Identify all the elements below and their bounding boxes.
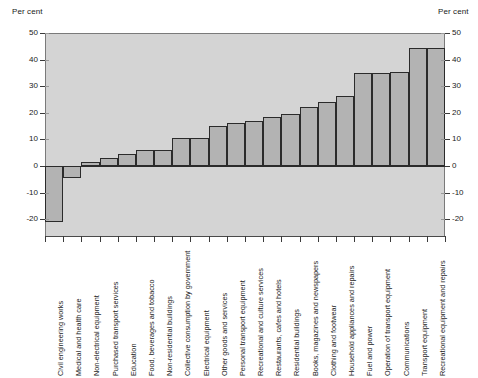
x-axis-label: Non-residential buildings [166, 296, 174, 376]
x-axis-label: Residential buildings [293, 309, 301, 376]
x-axis-label: Recreational and culture services [257, 268, 265, 376]
x-axis-label: Other goods and services [221, 293, 229, 376]
x-axis-label: Education [130, 344, 138, 376]
x-axis-label: Fuel and power [366, 326, 374, 376]
x-axis-label: Electrical equipment [203, 310, 211, 376]
x-axis-labels: Civil engineering worksMedical and healt… [0, 0, 478, 378]
x-axis-label: Operation of transport equipment [384, 269, 392, 376]
x-axis-label: Personal transport equipment [239, 280, 247, 376]
x-axis-label: Household appliances and repairs [348, 266, 356, 376]
x-axis-label: Food, beverages and tobacco [148, 279, 156, 376]
bar-chart: Per cent Per cent 50403020100-10-20 5040… [0, 0, 478, 378]
x-axis-label: Communications [403, 322, 411, 376]
x-axis-label: Civil engineering works [57, 301, 65, 376]
x-axis-label: Non-electrical equipment [93, 295, 101, 376]
x-axis-label: Recreational equipment and repairs [439, 260, 447, 376]
x-axis-label: Restaurants, cafes and hotels [275, 279, 283, 376]
x-axis-label: Clothing and footwear [330, 305, 338, 376]
x-axis-label: Collective consumption by government [184, 251, 192, 376]
x-axis-label: Medical and health care [75, 299, 83, 376]
x-axis-label: Transport equipment [421, 309, 429, 376]
x-axis-label: Books, magazines and newspapers [312, 261, 320, 376]
x-axis-label: Purchased transport services [112, 282, 120, 377]
